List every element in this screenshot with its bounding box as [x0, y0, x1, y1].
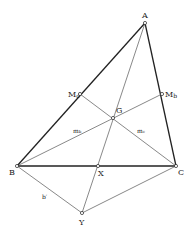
label-Y: Y: [78, 218, 85, 227]
point-X: [96, 164, 99, 167]
label-mb: mb: [73, 127, 82, 134]
label-A: A: [141, 11, 148, 20]
point-B: [15, 164, 18, 167]
point-Mb: [160, 92, 163, 95]
label-bprime: b′: [42, 193, 48, 200]
median-C-Mc: [80, 94, 176, 166]
label-B: B: [9, 168, 15, 177]
label-G: G: [116, 106, 122, 115]
point-A: [143, 21, 146, 24]
triangle-median-diagram: A B C G X Y Mc Mb mb mc b′: [0, 0, 193, 239]
point-Y: [80, 211, 83, 214]
segment-BY: [17, 166, 82, 213]
label-X: X: [98, 169, 104, 178]
label-mc: mc: [137, 127, 146, 134]
label-C: C: [178, 168, 184, 177]
label-Mb: Mb: [165, 90, 177, 99]
point-G: [111, 116, 114, 119]
segment-CY: [82, 166, 176, 213]
label-Mc: Mc: [68, 90, 80, 99]
